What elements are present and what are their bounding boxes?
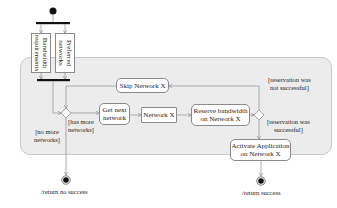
final-label-success: /return success <box>242 189 280 197</box>
action-skip-network: Skip Network X <box>116 78 169 93</box>
guard-reservation-successful: [reservation was successful] <box>267 118 310 133</box>
decision-reservation <box>254 110 264 120</box>
action-label: Reserve bandwidth on Network X <box>194 107 248 123</box>
object-preferred-networks: Preferred networks <box>55 33 75 73</box>
initial-node <box>50 8 57 15</box>
action-activate-application: Activate Application on Network X <box>230 139 291 161</box>
object-network-x: Network X <box>141 107 177 123</box>
edges-layer <box>0 0 337 208</box>
guard-no-more-networks: [no more networks] <box>34 128 60 143</box>
action-label: Skip Network X <box>120 82 166 90</box>
object-label: Preferred networks <box>57 40 73 66</box>
action-reserve-bandwidth: Reserve bandwidth on Network X <box>191 104 250 126</box>
guard-has-more-networks: [has more networks] <box>68 118 94 133</box>
object-bandwidth-requirements: Bandwidth requirements <box>31 33 51 73</box>
fork-bar <box>36 22 70 24</box>
join-bar <box>37 79 70 81</box>
final-label-no-success: /return no success <box>41 188 88 196</box>
decision-networks <box>61 108 71 118</box>
action-label: Activate Application on Network X <box>231 142 289 158</box>
object-label: Network X <box>143 111 174 119</box>
object-label: Bandwidth requirements <box>33 35 49 72</box>
guard-reservation-not-successful: [reservation was not successful] <box>268 76 311 91</box>
action-get-next-network: Get next network <box>99 103 130 125</box>
action-label: Get next network <box>103 106 127 122</box>
